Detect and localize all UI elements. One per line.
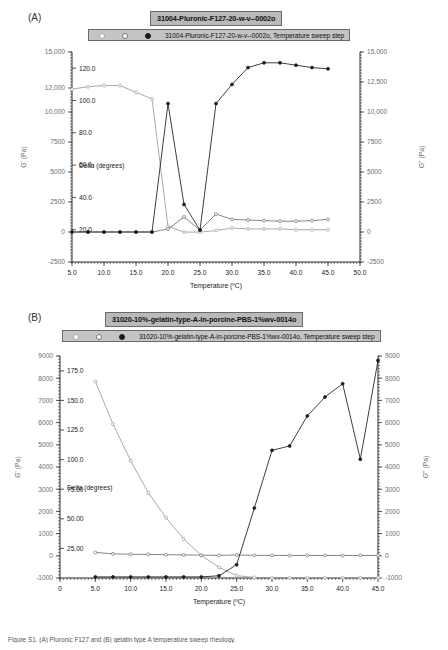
svg-text:9000: 9000 xyxy=(38,352,53,359)
svg-text:15,000: 15,000 xyxy=(367,48,388,55)
svg-text:45.0: 45.0 xyxy=(372,585,385,592)
svg-text:35.0: 35.0 xyxy=(258,269,271,276)
svg-text:2500: 2500 xyxy=(367,198,382,205)
panel-a-plot: 5.010.015.020.025.030.035.040.045.050.0-… xyxy=(0,44,448,306)
data-point xyxy=(341,554,344,557)
svg-text:10.0: 10.0 xyxy=(98,269,111,276)
svg-text:150.0: 150.0 xyxy=(67,397,84,404)
svg-text:10,000: 10,000 xyxy=(45,108,66,115)
series-line xyxy=(95,381,378,577)
svg-text:0: 0 xyxy=(385,552,389,559)
svg-text:50.0: 50.0 xyxy=(354,269,367,276)
svg-text:30.0: 30.0 xyxy=(266,585,279,592)
data-point xyxy=(295,228,298,231)
panel-a: (A) 31004-Pluronic-F127-20-w-v--0002o 31… xyxy=(0,0,448,310)
data-point xyxy=(377,359,380,362)
svg-text:0: 0 xyxy=(58,585,62,592)
svg-text:4000: 4000 xyxy=(38,463,53,470)
svg-text:-2500: -2500 xyxy=(48,258,65,265)
svg-text:9000: 9000 xyxy=(385,352,400,359)
data-point xyxy=(165,553,168,556)
data-point xyxy=(215,229,218,232)
svg-text:6000: 6000 xyxy=(38,419,53,426)
data-point xyxy=(167,102,170,105)
data-point xyxy=(253,507,256,510)
data-point xyxy=(231,218,234,221)
data-point xyxy=(306,414,309,417)
data-point xyxy=(112,552,115,555)
svg-text:-2500: -2500 xyxy=(367,258,384,265)
data-point xyxy=(235,553,238,556)
svg-text:25.0: 25.0 xyxy=(230,585,243,592)
svg-text:2000: 2000 xyxy=(38,508,53,515)
data-point xyxy=(215,102,218,105)
y-axis-left-title: G' (Pa) xyxy=(20,146,28,167)
svg-text:175.0: 175.0 xyxy=(67,367,84,374)
data-point xyxy=(218,566,221,569)
data-point xyxy=(183,231,186,234)
panel-b-plot: 05.010.015.020.025.030.035.040.045.0-100… xyxy=(0,346,448,626)
svg-text:7500: 7500 xyxy=(367,138,382,145)
data-point xyxy=(200,575,203,578)
svg-text:5.0: 5.0 xyxy=(91,585,100,592)
svg-text:7000: 7000 xyxy=(385,397,400,404)
data-point xyxy=(359,576,362,579)
svg-text:15.0: 15.0 xyxy=(130,269,143,276)
data-point xyxy=(218,554,221,557)
panel-b: (B) 31020-10%-gelatin-type-A-in-porcine-… xyxy=(0,310,448,640)
svg-text:5000: 5000 xyxy=(50,168,65,175)
data-point xyxy=(182,537,185,540)
svg-text:5000: 5000 xyxy=(38,441,53,448)
delta-axis-title: Delta (degrees) xyxy=(79,162,124,170)
svg-text:-1000: -1000 xyxy=(385,574,402,581)
y-axis-right-title: G'' (Pa) xyxy=(422,456,430,479)
data-point xyxy=(306,576,309,579)
data-point xyxy=(165,575,168,578)
svg-text:40.0: 40.0 xyxy=(79,194,92,201)
data-point xyxy=(247,219,250,222)
x-axis-title: Temperature (ºC) xyxy=(190,282,242,290)
data-point xyxy=(119,231,122,234)
svg-text:125.0: 125.0 xyxy=(67,426,84,433)
svg-text:0: 0 xyxy=(49,552,53,559)
svg-text:40.0: 40.0 xyxy=(336,585,349,592)
panel-b-legend: 31020-10%-gelatin-type-A-in-porcine-PBS-… xyxy=(62,330,381,342)
data-point xyxy=(112,423,115,426)
data-point xyxy=(377,576,380,579)
panel-a-chart-title: 31004-Pluronic-F127-20-w-v--0002o xyxy=(150,11,282,26)
svg-text:10,000: 10,000 xyxy=(367,108,388,115)
data-point xyxy=(359,458,362,461)
series-line xyxy=(95,360,378,576)
data-point xyxy=(231,83,234,86)
svg-text:8000: 8000 xyxy=(38,375,53,382)
panel-b-label: (B) xyxy=(28,312,41,323)
svg-text:30.0: 30.0 xyxy=(226,269,239,276)
data-point xyxy=(94,575,97,578)
data-point xyxy=(324,576,327,579)
svg-text:3000: 3000 xyxy=(38,486,53,493)
svg-text:1000: 1000 xyxy=(38,530,53,537)
data-point xyxy=(324,396,327,399)
data-point xyxy=(182,553,185,556)
data-point xyxy=(324,554,327,557)
data-point xyxy=(306,554,309,557)
panel-b-chart-title: 31020-10%-gelatin-type-A-in-porcine-PBS-… xyxy=(105,312,303,327)
data-point xyxy=(288,576,291,579)
svg-text:25.0: 25.0 xyxy=(194,269,207,276)
data-point xyxy=(71,88,74,91)
data-point xyxy=(103,231,106,234)
data-point xyxy=(377,554,380,557)
figure-caption: Figure S1. (A) Pluronic F127 and (B) gel… xyxy=(8,636,444,643)
panel-a-label: (A) xyxy=(28,12,41,23)
data-point xyxy=(200,554,203,557)
data-point xyxy=(103,84,106,87)
data-point xyxy=(71,231,74,234)
svg-text:50.00: 50.00 xyxy=(67,515,84,522)
svg-text:80.0: 80.0 xyxy=(79,129,92,136)
y-axis-left-title: G' (Pa) xyxy=(14,456,22,477)
svg-text:20.0: 20.0 xyxy=(162,269,175,276)
data-point xyxy=(341,576,344,579)
svg-text:120.0: 120.0 xyxy=(79,65,96,72)
data-point xyxy=(263,219,266,222)
data-point xyxy=(263,227,266,230)
